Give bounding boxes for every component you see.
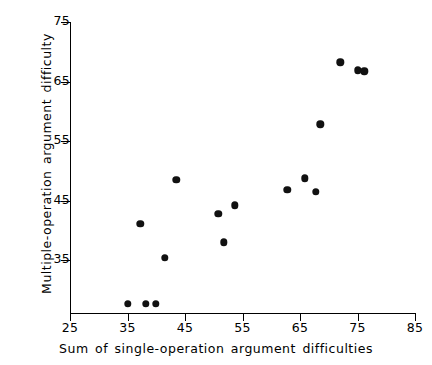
data-point — [173, 176, 180, 183]
data-point — [361, 68, 368, 75]
data-point — [301, 175, 308, 182]
data-point — [284, 186, 291, 193]
data-point — [312, 188, 319, 195]
x-axis-tick-label: 55 — [234, 321, 251, 334]
data-point — [161, 254, 168, 261]
data-point — [142, 300, 149, 307]
x-axis-tick-label: 85 — [407, 321, 424, 334]
data-point — [316, 121, 323, 128]
x-axis-title: Sum of single-operation argument difficu… — [0, 341, 432, 356]
data-point — [215, 210, 222, 217]
data-point — [136, 220, 143, 227]
scatter-plot-figure: 3545556575 25354555657585 Sum of single-… — [0, 0, 432, 365]
data-point — [152, 300, 159, 307]
y-axis-line — [70, 22, 71, 313]
data-point — [124, 300, 131, 307]
x-axis-tick-label: 35 — [119, 321, 136, 334]
y-axis-title: Multiple-operation argument difficulty — [39, 14, 54, 314]
x-axis-tick-label: 65 — [292, 321, 309, 334]
x-axis-tick-label: 45 — [177, 321, 194, 334]
x-axis-tick-label: 75 — [349, 321, 366, 334]
data-point — [337, 59, 344, 66]
data-point — [231, 202, 238, 209]
data-point — [220, 238, 227, 245]
x-axis-tick-label: 25 — [62, 321, 79, 334]
